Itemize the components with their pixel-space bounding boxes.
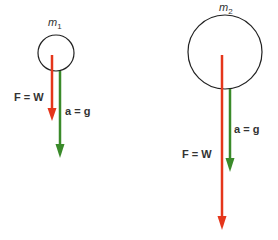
acceleration-arrow-1	[56, 71, 65, 158]
force-label-1: F = W	[14, 91, 44, 103]
mass-1-symbol: m	[48, 16, 57, 28]
mass-1-subscript: 1	[57, 22, 61, 31]
mass-2-symbol: m	[219, 1, 228, 13]
force-label-2: F = W	[182, 148, 212, 160]
force-arrow-2	[218, 55, 227, 230]
mass-2-label: m2	[219, 1, 233, 16]
free-fall-diagram	[0, 0, 278, 240]
mass-2-subscript: 2	[228, 7, 232, 16]
acceleration-label-1: a = g	[65, 105, 90, 117]
force-arrow-1	[48, 55, 57, 121]
mass-1-label: m1	[48, 16, 62, 31]
mass-1-circle	[38, 35, 74, 71]
acceleration-label-2: a = g	[234, 123, 259, 135]
mass-2-circle	[188, 15, 262, 89]
